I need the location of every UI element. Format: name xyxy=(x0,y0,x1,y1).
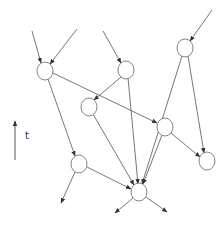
node-n2 xyxy=(118,61,134,79)
edge-n2-n7 xyxy=(128,78,138,184)
node-n4 xyxy=(81,98,97,116)
node-n3 xyxy=(177,39,193,57)
node-n7 xyxy=(131,183,147,201)
dag-diagram: t xyxy=(0,0,223,228)
edge-n6-out1 xyxy=(61,172,75,203)
edge-in3-n2 xyxy=(103,31,121,63)
edge-n4-n7 xyxy=(93,114,134,185)
edge-n3-n8 xyxy=(188,56,204,153)
node-n8 xyxy=(199,152,215,170)
edge-n6-n7 xyxy=(87,167,131,189)
time-axis-label: t xyxy=(25,130,29,141)
edge-n1-n6 xyxy=(48,79,75,156)
edge-n5-n7 xyxy=(143,135,162,184)
node-n1 xyxy=(37,62,53,80)
edge-in1-n1 xyxy=(32,31,41,63)
edge-n7-out2 xyxy=(115,198,133,213)
edge-in2-n1 xyxy=(50,29,77,64)
edge-n2-n4 xyxy=(94,77,121,100)
node-n6 xyxy=(71,155,87,173)
graph-svg xyxy=(0,0,223,228)
edge-in4-n3 xyxy=(190,10,212,41)
node-n5 xyxy=(157,118,173,136)
edge-n1-n5 xyxy=(53,73,157,123)
edge-n5-n8 xyxy=(171,133,200,157)
edge-n7-out3 xyxy=(146,197,167,212)
